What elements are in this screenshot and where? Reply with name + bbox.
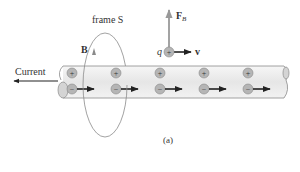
test-charge-sign: + bbox=[167, 48, 172, 57]
diagram-canvas: + + + + + − − − − − frame S B Current FB… bbox=[0, 0, 300, 172]
wire bbox=[58, 66, 289, 98]
positive-charge: + bbox=[70, 69, 75, 78]
negative-charge: − bbox=[158, 85, 163, 94]
b-field-arrowhead-icon bbox=[92, 48, 96, 55]
caption: (a) bbox=[163, 135, 173, 145]
charge-label: q bbox=[157, 46, 162, 57]
positive-charge: + bbox=[114, 69, 119, 78]
current-label: Current bbox=[15, 66, 46, 77]
positive-charge: + bbox=[202, 69, 207, 78]
negative-charge: − bbox=[70, 85, 75, 94]
negative-charge: − bbox=[246, 85, 251, 94]
positive-charge: + bbox=[246, 69, 251, 78]
test-charge: + bbox=[164, 47, 174, 57]
negative-charge: − bbox=[202, 85, 207, 94]
velocity-label: v bbox=[195, 46, 200, 57]
negative-charge: − bbox=[114, 85, 119, 94]
frame-label: frame S bbox=[92, 14, 123, 25]
positive-charge: + bbox=[158, 69, 163, 78]
b-field-label: B bbox=[81, 44, 88, 55]
force-label: FB bbox=[176, 10, 187, 23]
